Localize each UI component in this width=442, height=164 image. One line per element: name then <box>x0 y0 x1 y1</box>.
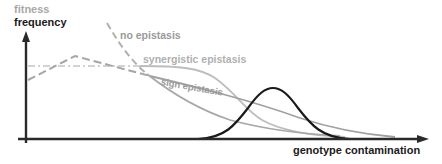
y-axis-label-fitness: fitness <box>14 3 49 15</box>
y-axis-label-frequency: frequency <box>14 16 67 28</box>
sign-epistasis-curve <box>28 56 395 137</box>
x-axis-label: genotype contamination <box>293 144 420 156</box>
curve-label-no-epistasis: no epistasis <box>120 29 181 41</box>
y-axis-arrow-icon <box>22 31 30 42</box>
curve-label-synergistic-epistasis: synergistic epistasis <box>143 53 246 65</box>
y-axis <box>22 31 30 143</box>
x-axis-arrow-icon <box>417 135 429 143</box>
x-axis <box>18 135 429 143</box>
